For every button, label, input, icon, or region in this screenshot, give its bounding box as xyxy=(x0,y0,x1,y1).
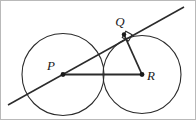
dot-q xyxy=(122,32,126,36)
label-p: P xyxy=(46,58,55,73)
figure-canvas: P Q R xyxy=(1,1,196,120)
dot-r xyxy=(140,72,145,77)
label-r: R xyxy=(146,68,155,83)
tangent-line xyxy=(8,7,184,105)
dot-p xyxy=(61,72,66,77)
geometry-figure: P Q R xyxy=(0,0,196,120)
label-q: Q xyxy=(115,14,125,29)
